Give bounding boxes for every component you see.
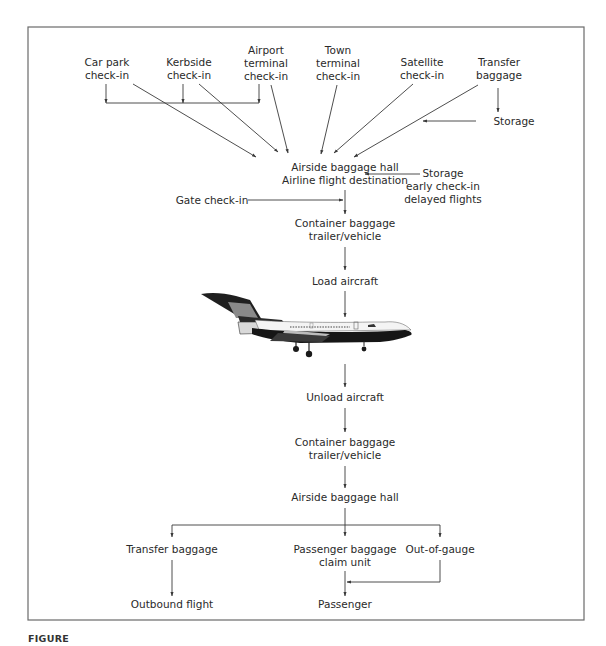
figure-caption: FIGURE: [28, 633, 75, 644]
storage-transfer-label: Storage: [493, 115, 534, 127]
source-kerbside: Kerbside check-in: [166, 56, 211, 81]
source-car-park: Car park check-in: [85, 56, 131, 81]
svg-text:terminal: terminal: [244, 57, 288, 69]
svg-text:Container baggage: Container baggage: [295, 217, 396, 229]
source-airport-terminal: Airport terminal check-in: [244, 44, 288, 82]
svg-text:Town: Town: [324, 44, 351, 56]
svg-text:Satellite: Satellite: [400, 56, 443, 68]
checkin-bus-connector: [106, 84, 259, 103]
node-claim-unit: Passenger baggage claim unit: [293, 543, 396, 568]
svg-text:Kerbside: Kerbside: [166, 56, 211, 68]
svg-text:Airport: Airport: [248, 44, 284, 56]
svg-text:Airside baggage hall: Airside baggage hall: [291, 161, 399, 173]
node-container-in: Container baggage trailer/vehicle: [295, 436, 396, 461]
svg-text:Transfer: Transfer: [477, 56, 521, 68]
node-transfer-baggage-out: Transfer baggage: [125, 543, 218, 555]
node-outbound-flight: Outbound flight: [131, 598, 213, 610]
svg-text:check-in: check-in: [244, 70, 288, 82]
svg-text:check-in: check-in: [167, 69, 211, 81]
svg-text:check-in: check-in: [85, 69, 129, 81]
node-load-aircraft: Load aircraft: [312, 275, 378, 287]
svg-text:baggage: baggage: [476, 69, 522, 81]
svg-text:Airline flight destination: Airline flight destination: [282, 174, 408, 186]
node-passenger: Passenger: [318, 598, 372, 610]
arrows-to-airside-hall: [133, 84, 478, 157]
svg-text:delayed flights: delayed flights: [404, 193, 482, 205]
svg-text:Container baggage: Container baggage: [295, 436, 396, 448]
node-airside-hall-bottom: Airside baggage hall: [291, 491, 399, 503]
node-airside-hall-top: Airside baggage hall Airline flight dest…: [282, 161, 408, 186]
source-satellite: Satellite check-in: [400, 56, 444, 81]
node-out-of-gauge: Out-of-gauge: [405, 543, 474, 555]
svg-text:check-in: check-in: [400, 69, 444, 81]
svg-text:check-in: check-in: [316, 70, 360, 82]
node-container-out: Container baggage trailer/vehicle: [295, 217, 396, 242]
svg-text:Passenger baggage: Passenger baggage: [293, 543, 396, 555]
figure-caption-label: FIGURE: [28, 633, 69, 644]
distribution-connector: [172, 508, 440, 537]
node-storage-early: Storage early check-in delayed flights: [404, 167, 482, 205]
baggage-flow-diagram: Car park check-in Kerbside check-in Airp…: [0, 0, 606, 646]
source-town-terminal: Town terminal check-in: [316, 44, 360, 82]
svg-text:terminal: terminal: [316, 57, 360, 69]
svg-text:Car park: Car park: [85, 56, 131, 68]
svg-text:Storage: Storage: [422, 167, 463, 179]
node-gate-checkin: Gate check-in: [176, 194, 249, 206]
svg-text:trailer/vehicle: trailer/vehicle: [309, 449, 381, 461]
node-unload-aircraft: Unload aircraft: [306, 391, 384, 403]
svg-text:claim unit: claim unit: [319, 556, 371, 568]
svg-text:trailer/vehicle: trailer/vehicle: [309, 230, 381, 242]
aircraft-image: [201, 293, 412, 357]
source-transfer-baggage: Transfer baggage: [476, 56, 522, 81]
svg-text:early check-in: early check-in: [406, 180, 480, 192]
